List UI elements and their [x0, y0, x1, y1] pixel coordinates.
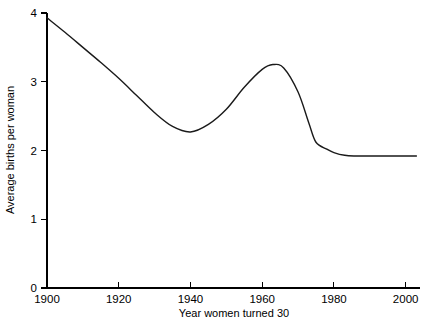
x-tick-label: 1900	[34, 293, 60, 305]
x-tick-label: 1940	[178, 293, 204, 305]
data-series-line	[47, 18, 416, 156]
x-tick-label: 1980	[321, 293, 347, 305]
y-axis-title: Average births per woman	[4, 86, 16, 214]
x-axis-title: Year women turned 30	[179, 307, 289, 319]
x-axis: 190019201940196019802000 Year women turn…	[34, 282, 420, 319]
x-tick-label: 1920	[106, 293, 132, 305]
chart-container: 01234 Average births per woman 190019201…	[0, 0, 426, 324]
y-tick-label: 3	[31, 76, 37, 88]
y-tick-label: 2	[31, 145, 37, 157]
x-tick-label: 1960	[249, 293, 275, 305]
y-tick-label: 4	[31, 7, 38, 19]
x-axis-ticks: 190019201940196019802000	[34, 282, 418, 305]
y-axis-ticks: 01234	[31, 7, 47, 294]
y-tick-label: 1	[31, 213, 37, 225]
line-chart: 01234 Average births per woman 190019201…	[0, 0, 426, 324]
y-axis: 01234 Average births per woman	[4, 7, 47, 294]
x-tick-label: 2000	[393, 293, 419, 305]
plot-area	[47, 18, 416, 156]
